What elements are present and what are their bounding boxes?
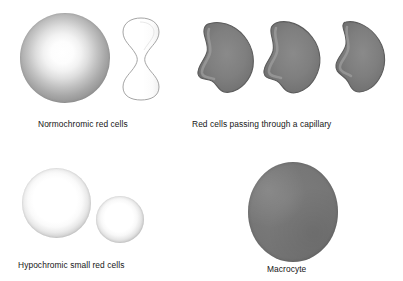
panel-hypochromic-red-cells: Hypochromic small red cells (0, 140, 186, 281)
capillary-cell-3 (326, 18, 394, 100)
panel-macrocyte: Macrocyte (186, 140, 403, 281)
normochromic-cell-side-view (118, 16, 164, 102)
panel-normochromic-red-cells: Normochromic red cells (0, 0, 186, 140)
panel-capillary-red-cells: Red cells passing through a capillary (186, 0, 403, 140)
capillary-cell-2 (260, 18, 328, 100)
hypochromic-cell-large (22, 168, 91, 238)
macrocyte-cell (248, 162, 338, 262)
caption-macrocyte: Macrocyte (267, 265, 306, 273)
panel-macrocyte-artwork (186, 140, 403, 281)
normochromic-cell-face-view (20, 13, 110, 103)
caption-normochromic: Normochromic red cells (38, 120, 128, 128)
hypochromic-cell-small (96, 196, 144, 243)
capillary-cell-1 (194, 18, 262, 100)
figure-canvas: Normochromic red cells (0, 0, 403, 281)
caption-capillary: Red cells passing through a capillary (192, 120, 331, 128)
caption-hypochromic: Hypochromic small red cells (18, 261, 124, 269)
